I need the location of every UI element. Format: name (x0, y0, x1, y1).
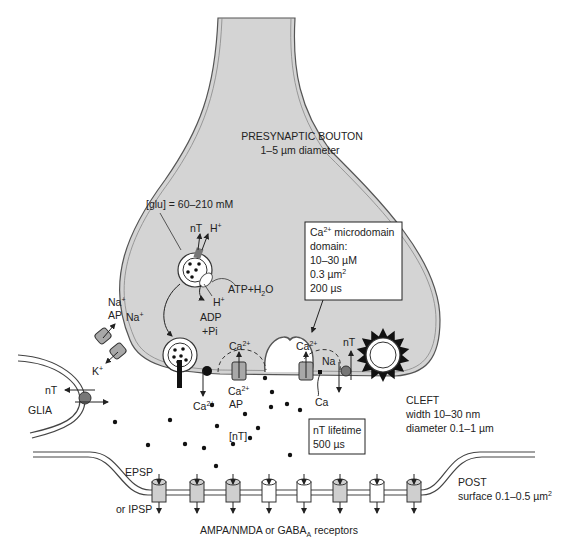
ap-label-2: AP (229, 398, 243, 410)
na-exch-label: Na (322, 355, 336, 367)
glu-concentration: [glu] = 60–210 mM (146, 198, 233, 210)
pi-label: +Pi (202, 325, 217, 337)
nT-molecule (263, 376, 267, 380)
ca-ap-label: Ca2+ (228, 385, 249, 397)
nT-molecule (231, 442, 235, 446)
nT-molecule (210, 403, 214, 407)
lifetime-box: nT lifetime 500 µs (309, 419, 365, 454)
nT-molecule (214, 464, 218, 468)
epsp-label: EPSP (125, 466, 153, 478)
nT-molecule (243, 412, 247, 416)
nT-molecule (248, 436, 252, 440)
post-title: POST (458, 476, 487, 488)
docked-vesicle (163, 338, 197, 388)
k-label: K+ (92, 365, 103, 377)
receptor (152, 474, 166, 513)
ca-exch-label: Ca (315, 396, 329, 408)
cleft-title: CLEFT (406, 394, 440, 406)
nT-molecule (298, 408, 302, 412)
nT-transporter (341, 366, 351, 376)
adp-label: ADP (200, 311, 222, 323)
atp-h2o-label: ATP+H2O (228, 283, 273, 297)
cleft-diameter: diameter 0.1–1 µm (406, 422, 494, 434)
ipsp-label: or IPSP (116, 503, 152, 515)
nT-concentration-label: [nT] (229, 430, 247, 442)
na-channel (94, 327, 112, 345)
nT-molecule (183, 442, 187, 446)
bouton-size: 1–5 µm diameter (260, 144, 340, 156)
synapse-diagram: PRESYNAPTIC BOUTON PRESYNAPTIC BOUTON 1–… (0, 0, 568, 553)
ap-label: AP (108, 309, 122, 321)
bouton-title: PRESYNAPTIC BOUTON (241, 0, 363, 2)
svg-text:Ca2+ microdomain: Ca2+ microdomain (310, 226, 395, 238)
bouton-title: PRESYNAPTIC BOUTON (241, 130, 363, 142)
nT-molecule (215, 424, 219, 428)
receptors-label: AMPA/NMDA or GABAA receptors (200, 524, 358, 538)
nT-molecule (288, 453, 292, 457)
nT-molecule (168, 418, 172, 422)
glia-membrane (18, 355, 85, 438)
svg-text:nT lifetime: nT lifetime (313, 424, 361, 436)
receptor (190, 474, 204, 513)
nT-molecule (256, 426, 260, 430)
receptor (226, 474, 240, 513)
svg-text:200 µs: 200 µs (310, 282, 342, 294)
receptor (407, 474, 421, 513)
svg-text:10–30 µM: 10–30 µM (310, 254, 357, 266)
receptor-row (152, 474, 421, 513)
neurotransmitter-molecules (113, 376, 302, 468)
glia-label: GLIA (28, 404, 52, 416)
svg-text:domain:: domain: (310, 240, 347, 252)
nT-molecule (285, 402, 289, 406)
nT-molecule (270, 390, 274, 394)
microdomain-box: Ca2+ microdomain domain: 10–30 µM 0.3 µm… (305, 222, 402, 300)
cleft-width: width 10–30 nm (405, 408, 480, 420)
receptor (297, 474, 311, 513)
glia-nT-label: nT (45, 384, 58, 396)
receptor (333, 474, 347, 513)
svg-text:500 µs: 500 µs (313, 438, 345, 450)
presynaptic-bouton (120, 18, 440, 376)
nT-molecule (113, 420, 117, 424)
nT-molecule (269, 405, 273, 409)
nT-molecule (146, 443, 150, 447)
nT-out-label: nT (190, 222, 203, 234)
nT-right-label: nT (343, 336, 356, 348)
receptor (262, 474, 276, 513)
post-surface: surface 0.1–0.5 µm2 (458, 490, 552, 502)
svg-text:0.3 µm2: 0.3 µm2 (310, 268, 346, 280)
na-ca-exchanger (318, 370, 322, 374)
nT-molecule (202, 446, 206, 450)
receptor (370, 474, 384, 513)
